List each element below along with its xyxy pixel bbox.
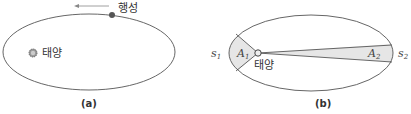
planet-label: 행성: [118, 2, 138, 15]
caption-b: (b): [315, 98, 331, 109]
caption-a: (a): [81, 98, 97, 109]
sun-label-b: 태양: [254, 59, 274, 72]
sun-label-a: 태양: [42, 47, 62, 60]
s1-label: s1: [211, 47, 221, 61]
sun-icon: [29, 49, 37, 57]
kepler-diagram: 행성 태양 (a) 태양 A1 A2 s1: [0, 0, 411, 114]
panel-a: 행성 태양 (a): [3, 2, 175, 109]
panel-b: 태양 A1 A2 s1 s2 (b): [211, 15, 409, 109]
s2-label: s2: [398, 47, 409, 61]
planet-icon: [109, 12, 115, 18]
arrow-left-icon: [74, 4, 109, 8]
sun-icon: [255, 50, 261, 56]
orbit-ellipse-a: [3, 14, 175, 90]
